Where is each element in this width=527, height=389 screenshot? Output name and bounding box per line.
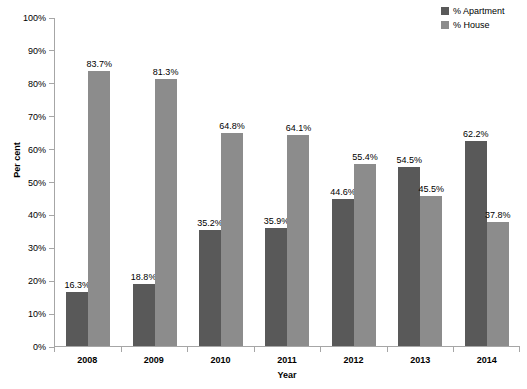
bar-value-label: 45.5% [419,184,445,194]
y-axis-tick: 70% [28,112,54,122]
bar-column[interactable]: 16.3% [66,18,88,346]
x-axis-title: Year [54,370,520,380]
y-axis-tick-label: 60% [28,145,46,155]
x-axis-tick-mark [254,347,255,352]
x-axis-tick [453,347,520,353]
bar-value-label: 62.2% [463,129,489,139]
y-axis-tick: 90% [28,46,54,56]
bar-column[interactable]: 55.4% [354,18,376,346]
y-axis-tick: 100% [23,13,54,23]
bar-group: 54.5%45.5% [387,18,453,346]
x-axis-tick [387,347,454,353]
y-axis-tick-label: 80% [28,79,46,89]
plot-area: 16.3%83.7%18.8%81.3%35.2%64.8%35.9%64.1%… [54,18,520,347]
x-axis-tick [254,347,321,353]
x-axis-label: 2009 [121,355,188,365]
y-axis-tick-label: 0% [33,342,46,352]
bar-value-label: 64.8% [219,121,245,131]
y-axis-tick: 50% [28,178,54,188]
bar-value-label: 64.1% [286,123,312,133]
bar-column[interactable]: 81.3% [155,18,177,346]
x-axis-tick-end [519,347,520,352]
x-axis-label: 2008 [54,355,121,365]
bar-column[interactable]: 64.1% [287,18,309,346]
bar-house[interactable] [487,222,509,346]
bar-apartment[interactable] [465,141,487,346]
bar-group: 16.3%83.7% [55,18,121,346]
bar-group: 62.2%37.8% [454,18,520,346]
x-axis-label: 2013 [387,355,454,365]
legend-swatch-apartment [441,7,449,15]
bar-column[interactable]: 44.6% [332,18,354,346]
bar-value-label: 35.9% [264,216,290,226]
x-axis-tick-mark [453,347,454,352]
bar-groups: 16.3%83.7%18.8%81.3%35.2%64.8%35.9%64.1%… [55,18,520,346]
bar-column[interactable]: 54.5% [398,18,420,346]
y-axis-tick-label: 10% [28,309,46,319]
bar-column[interactable]: 64.8% [221,18,243,346]
y-axis-tick: 60% [28,145,54,155]
bar-value-label: 37.8% [485,210,511,220]
bar-apartment[interactable] [398,167,420,346]
y-axis-ticks: 0%10%20%30%40%50%60%70%80%90%100% [0,18,54,347]
legend-label-apartment: % Apartment [453,6,505,17]
y-axis-tick: 20% [28,276,54,286]
bar-value-label: 54.5% [397,155,423,165]
bar-value-label: 16.3% [64,280,90,290]
x-axis-tick-mark [121,347,122,352]
x-axis-label: 2012 [320,355,387,365]
bar-column[interactable]: 45.5% [420,18,442,346]
bar-house[interactable] [287,135,309,346]
y-axis-tick-label: 50% [28,178,46,188]
bar-group: 44.6%55.4% [321,18,387,346]
x-axis-tick [121,347,188,353]
y-axis-tick-label: 100% [23,13,46,23]
bar-column[interactable]: 35.9% [265,18,287,346]
x-axis-tick [54,347,121,353]
bar-value-label: 44.6% [330,187,356,197]
bar-house[interactable] [88,71,110,346]
bar-house[interactable] [354,164,376,346]
y-axis-tick-label: 30% [28,243,46,253]
bar-value-label: 81.3% [153,67,179,77]
y-axis-tick: 0% [33,342,54,352]
x-axis-tick-mark [320,347,321,352]
bar-group: 35.9%64.1% [254,18,320,346]
bar-house[interactable] [221,133,243,346]
y-axis-tick: 30% [28,243,54,253]
bar-value-label: 55.4% [352,152,378,162]
x-axis-label: 2014 [453,355,520,365]
bar-apartment[interactable] [332,199,354,346]
x-axis-tick [320,347,387,353]
bar-group: 18.8%81.3% [121,18,187,346]
x-axis-label: 2010 [187,355,254,365]
bar-column[interactable]: 18.8% [133,18,155,346]
bar-column[interactable]: 62.2% [465,18,487,346]
bar-apartment[interactable] [265,228,287,346]
x-axis-ticks [54,347,520,353]
y-axis-tick: 80% [28,79,54,89]
bar-apartment[interactable] [199,230,221,346]
y-axis-tick-label: 20% [28,276,46,286]
bar-value-label: 18.8% [131,272,157,282]
bar-apartment[interactable] [133,284,155,346]
bar-house[interactable] [155,79,177,346]
bar-column[interactable]: 83.7% [88,18,110,346]
legend-item-apartment: % Apartment [441,5,505,17]
x-axis-tick-mark [387,347,388,352]
bar-group: 35.2%64.8% [188,18,254,346]
x-axis-label: 2011 [254,355,321,365]
bar-apartment[interactable] [66,292,88,346]
y-axis-tick-label: 40% [28,210,46,220]
y-axis-tick: 40% [28,210,54,220]
bar-house[interactable] [420,196,442,346]
y-axis-tick-label: 70% [28,112,46,122]
y-axis-tick: 10% [28,309,54,319]
y-axis-tick-label: 90% [28,46,46,56]
bar-value-label: 83.7% [86,59,112,69]
bar-column[interactable]: 37.8% [487,18,509,346]
bar-chart: % Apartment % House Per cent 0%10%20%30%… [0,0,527,389]
x-axis-tick-mark [187,347,188,352]
bar-value-label: 35.2% [197,218,223,228]
bar-column[interactable]: 35.2% [199,18,221,346]
